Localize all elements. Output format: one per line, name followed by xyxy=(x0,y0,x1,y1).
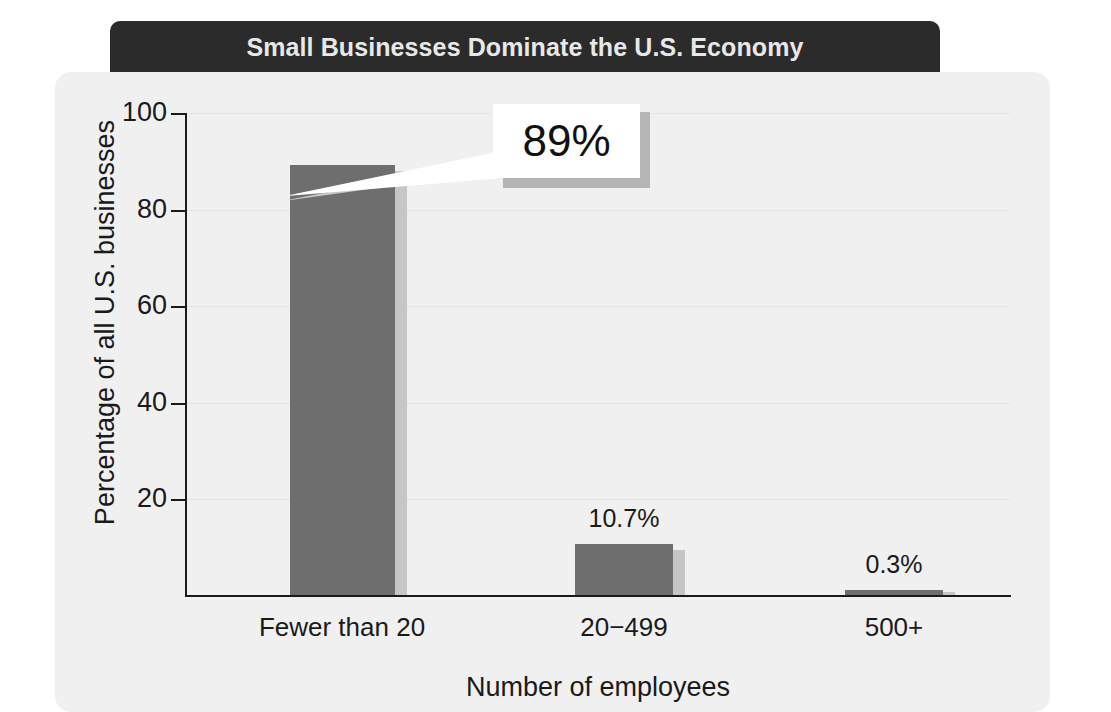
y-tick-100 xyxy=(171,113,186,115)
callout-value-89: 89% xyxy=(493,104,640,178)
x-axis-title: Number of employees xyxy=(185,672,1011,703)
x-tick-label-20-499: 20−499 xyxy=(514,612,734,643)
bar-20-499 xyxy=(575,544,673,595)
x-tick-label-500-plus: 500+ xyxy=(784,612,1004,643)
y-axis-line xyxy=(185,113,187,597)
bar-label-500-plus: 0.3% xyxy=(824,550,964,579)
x-axis-line xyxy=(185,595,1011,597)
y-axis-title: Percentage of all U.S. businesses xyxy=(90,73,121,573)
chart-panel: 100 80 60 40 20 Percentage of all U.S. b… xyxy=(55,72,1050,712)
bar-500-plus xyxy=(845,590,943,595)
y-tick-20 xyxy=(171,499,186,501)
bar-shadow-1 xyxy=(395,171,407,595)
callout-box: 89% xyxy=(493,104,640,178)
bar-shadow-3 xyxy=(943,592,955,595)
y-tick-40 xyxy=(171,403,186,405)
bar-label-20-499: 10.7% xyxy=(554,504,694,533)
y-tick-60 xyxy=(171,306,186,308)
bar-shadow-2 xyxy=(673,550,685,595)
page-title: Small Businesses Dominate the U.S. Econo… xyxy=(110,21,940,73)
y-tick-80 xyxy=(171,210,186,212)
bar-fewer-than-20 xyxy=(290,165,395,595)
x-tick-label-fewer-than-20: Fewer than 20 xyxy=(232,612,452,643)
chart-title-banner: Small Businesses Dominate the U.S. Econo… xyxy=(110,21,940,73)
